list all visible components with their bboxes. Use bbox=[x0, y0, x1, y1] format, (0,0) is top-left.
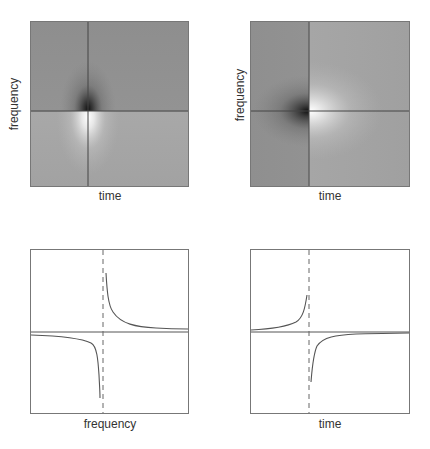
right-branch-curve bbox=[106, 273, 188, 329]
top-right-map-graphic bbox=[251, 22, 409, 186]
top-left-map-graphic bbox=[31, 22, 188, 186]
bottom-left-plot-graphic bbox=[31, 250, 188, 413]
bottom-right-plot-graphic bbox=[251, 250, 409, 413]
top-left-xlabel: time bbox=[30, 189, 190, 203]
top-right-ylabel: frequency bbox=[233, 55, 247, 135]
left-branch-curve bbox=[251, 295, 307, 330]
left-branch-curve bbox=[31, 335, 100, 398]
bottom-right-xlabel: time bbox=[250, 417, 410, 431]
bottom-right-line-plot bbox=[250, 249, 410, 414]
bottom-left-xlabel: frequency bbox=[30, 417, 190, 431]
top-right-spectrogram bbox=[250, 21, 410, 187]
top-left-ylabel: frequency bbox=[7, 64, 21, 144]
top-right-xlabel: time bbox=[250, 189, 410, 203]
right-branch-curve bbox=[311, 333, 409, 382]
top-left-spectrogram bbox=[30, 21, 189, 187]
bottom-left-line-plot bbox=[30, 249, 189, 414]
